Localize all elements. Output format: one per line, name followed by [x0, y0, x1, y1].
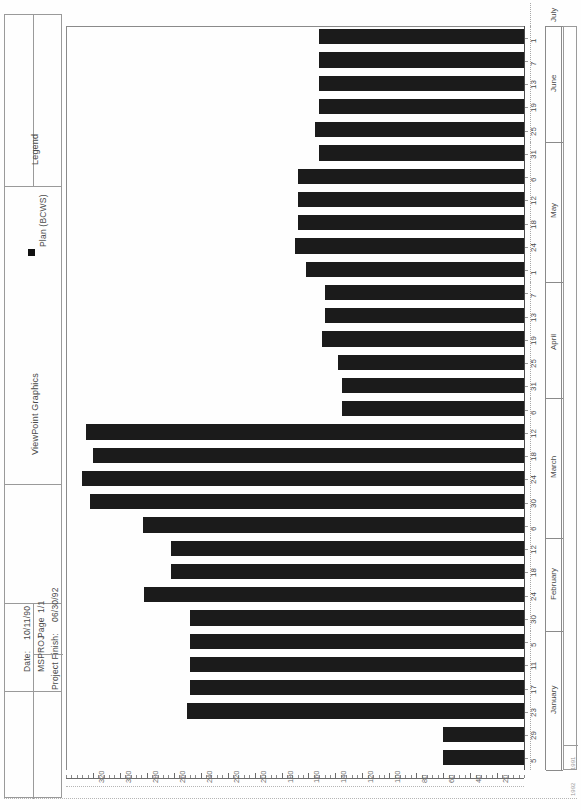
value-tick-major [470, 773, 471, 779]
month-gutter-guide [530, 398, 532, 538]
category-tick [525, 665, 528, 666]
value-axis-label: 260 [178, 770, 187, 783]
category-tick [525, 293, 528, 294]
year-band [563, 26, 577, 770]
legend-swatch-plan [28, 249, 35, 256]
value-tick-major [416, 773, 417, 779]
category-tick [525, 224, 528, 225]
bar-plan-bcws [298, 169, 524, 184]
bar-plan-bcws [187, 703, 524, 718]
chart-title: ViewPoint Graphics [30, 373, 40, 455]
axis-dotted-separator [66, 786, 524, 787]
bar-plan-bcws [342, 378, 524, 393]
month-gutter-guide [530, 26, 532, 142]
category-tick [525, 479, 528, 480]
month-label: February [549, 568, 558, 600]
divider [33, 603, 34, 799]
value-axis-label: 200 [259, 770, 268, 783]
bar-plan-bcws [443, 750, 524, 765]
value-tick-minor [222, 775, 223, 778]
bar-plan-bcws [319, 145, 524, 160]
value-tick-minor [271, 775, 272, 778]
category-tick [525, 689, 528, 690]
month-separator [546, 770, 563, 771]
year-label: 1992 [570, 783, 576, 796]
value-tick-minor [77, 775, 78, 778]
printed-page: Legend Plan (BCWS) ViewPoint Graphics Da… [0, 0, 581, 810]
category-tick [525, 619, 528, 620]
project-finish-label: Project Finish: [50, 633, 60, 690]
month-label: April [549, 334, 558, 350]
bar-plan-bcws [171, 541, 524, 556]
category-tick [525, 247, 528, 248]
value-tick-minor [298, 775, 299, 778]
category-tick [525, 386, 528, 387]
value-tick-minor [66, 775, 67, 778]
month-separator [546, 142, 563, 143]
value-tick-minor [276, 775, 277, 778]
value-tick-minor [195, 775, 196, 778]
bar-plan-bcws [298, 215, 524, 230]
bar-plan-bcws [93, 448, 524, 463]
year-label: 1991 [570, 757, 576, 770]
value-axis-label: 60 [447, 775, 456, 783]
legend-item-plan-bcws: Plan (BCWS) [38, 194, 48, 247]
month-gutter-guide [530, 282, 532, 398]
value-tick-minor [168, 775, 169, 778]
value-axis-label: 140 [339, 770, 348, 783]
value-axis-label: 120 [366, 770, 375, 783]
page-label: Page [36, 617, 46, 638]
bar-plan-bcws [325, 285, 524, 300]
category-tick [525, 340, 528, 341]
value-tick-minor [109, 775, 110, 778]
bar-plan-bcws [298, 192, 524, 207]
value-axis-label: 320 [97, 770, 106, 783]
value-tick-minor [136, 775, 137, 778]
bar-plan-bcws [143, 517, 524, 532]
bar-plan-bcws [319, 52, 524, 67]
category-tick [525, 270, 528, 271]
month-label: June [549, 75, 558, 92]
value-axis-label: 100 [393, 770, 402, 783]
year-separator [564, 745, 578, 746]
category-tick [525, 131, 528, 132]
bar-plan-bcws [306, 262, 524, 277]
value-axis-label: 80 [420, 775, 429, 783]
bar-plan-bcws [322, 331, 524, 346]
value-axis-label: 300 [124, 770, 133, 783]
value-axis-label: 180 [286, 770, 295, 783]
value-tick-major [228, 773, 229, 779]
month-separator [546, 26, 563, 27]
month-separator [546, 538, 563, 539]
bar-plan-bcws [443, 727, 524, 742]
category-tick [525, 712, 528, 713]
category-tick [525, 642, 528, 643]
value-tick-minor [492, 775, 493, 778]
category-tick [525, 61, 528, 62]
month-separator [546, 631, 563, 632]
value-tick-minor [438, 775, 439, 778]
value-tick-minor [352, 775, 353, 778]
value-tick-minor [379, 775, 380, 778]
month-gutter-guide [530, 3, 532, 26]
page-value: 1/1 [36, 601, 46, 613]
category-tick [525, 317, 528, 318]
divider [5, 186, 61, 187]
category-tick [525, 549, 528, 550]
value-tick-major [497, 773, 498, 779]
month-gutter-guide [530, 631, 532, 771]
value-tick-minor [384, 775, 385, 778]
month-label: March [549, 456, 558, 478]
category-tick [525, 433, 528, 434]
bar-plan-bcws [338, 355, 524, 370]
bar-plan-bcws [319, 76, 524, 91]
date-label: Date: [22, 651, 32, 672]
value-tick-minor [405, 775, 406, 778]
bar-plan-bcws [190, 680, 524, 695]
bar-plan-bcws [342, 401, 524, 416]
category-tick [525, 363, 528, 364]
category-tick [525, 526, 528, 527]
page-bottom-rule [4, 798, 577, 799]
month-label: January [549, 686, 558, 714]
value-tick-minor [411, 775, 412, 778]
